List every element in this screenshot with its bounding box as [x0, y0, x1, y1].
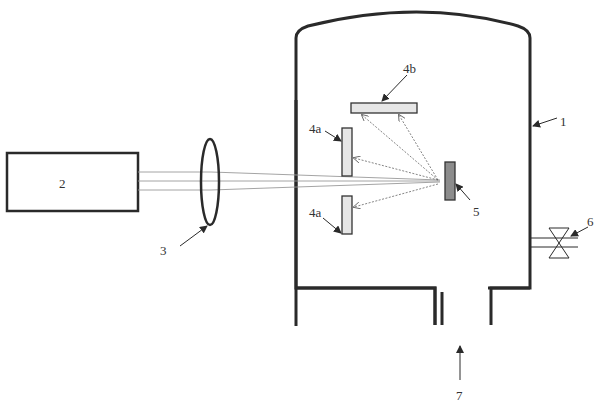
- chamber-outlet-gap: [440, 286, 488, 292]
- label-4a-upper: 4a: [309, 121, 322, 136]
- leader-6: [571, 227, 588, 236]
- diagram-canvas: 2 3 4b 4a 4a 5 1 6 7: [0, 0, 599, 411]
- label-lens: 3: [160, 243, 167, 258]
- laser-beam: [138, 172, 440, 190]
- ablation-plume: [354, 115, 438, 207]
- substrate-4a-lower: [342, 196, 352, 234]
- leader-4b: [382, 75, 407, 101]
- label-gas-inlet: 7: [456, 388, 463, 403]
- valve: [530, 228, 578, 258]
- substrate-4a-upper: [342, 128, 352, 176]
- leader-5: [456, 184, 470, 200]
- label-laser: 2: [59, 176, 66, 191]
- substrate-4b: [351, 103, 417, 113]
- leader-4a-upper: [325, 131, 341, 141]
- label-chamber: 1: [560, 114, 567, 129]
- label-4b: 4b: [403, 61, 416, 76]
- leader-4a-lower: [323, 218, 341, 233]
- laser-source: [7, 153, 138, 211]
- label-target: 5: [473, 204, 480, 219]
- leader-1: [533, 118, 557, 126]
- label-valve: 6: [587, 214, 594, 229]
- label-4a-lower: 4a: [309, 205, 322, 220]
- chamber-bottom-left: [296, 288, 435, 325]
- target: [445, 162, 455, 200]
- vacuum-chamber: [296, 12, 530, 326]
- focusing-lens: [201, 139, 219, 225]
- leader-3: [180, 226, 207, 246]
